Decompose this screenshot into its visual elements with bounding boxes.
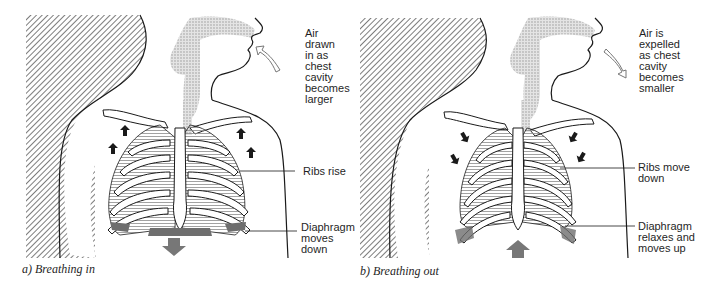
caption-breathing-out: b) Breathing out xyxy=(360,264,439,279)
panel-breathing-out: Air is expelled as chest cavity becomes … xyxy=(360,0,719,293)
sternum xyxy=(173,128,186,230)
ribs-label-down: Ribs move down xyxy=(638,162,690,184)
sternum xyxy=(511,128,524,230)
diaphragm xyxy=(148,228,212,236)
diaphragm-label-up: Diaphragm relaxes and moves up xyxy=(638,221,695,254)
ribs-label-rise: Ribs rise xyxy=(303,166,346,177)
air-inflow-arrow xyxy=(256,46,280,72)
clavicle-left xyxy=(444,112,508,130)
panel-breathing-in: Air drawn in as chest cavity becomes lar… xyxy=(0,0,360,293)
diaphragm-arrow-up xyxy=(506,240,530,258)
diaphragm-label-down: Diaphragm moves down xyxy=(301,222,355,255)
air-outflow-arrow xyxy=(604,49,626,78)
air-label-in: Air drawn in as chest cavity becomes lar… xyxy=(305,28,350,105)
diaphragm-arrow-down xyxy=(162,238,186,256)
air-label-out: Air is expelled as chest cavity becomes … xyxy=(639,28,684,94)
airway xyxy=(170,17,255,121)
caption-breathing-in: a) Breathing in xyxy=(22,262,95,277)
ribcage xyxy=(108,128,250,234)
